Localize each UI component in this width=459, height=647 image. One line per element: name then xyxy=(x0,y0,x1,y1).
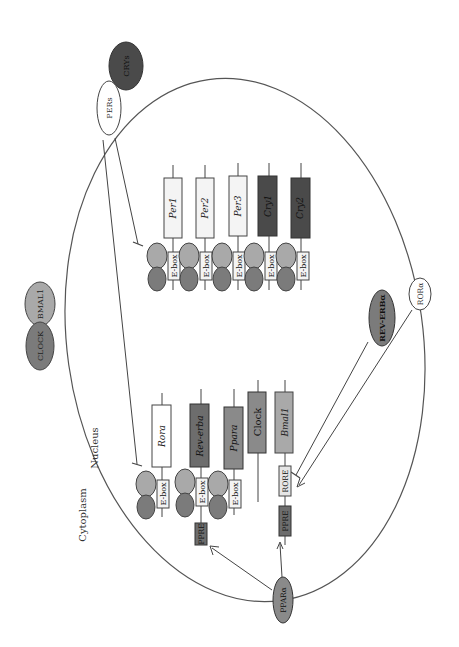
e-box-label: E-box xyxy=(202,254,211,278)
ppre-label: PPRE xyxy=(281,510,290,531)
bmal1-bound xyxy=(208,471,228,497)
bmal1-bound xyxy=(212,243,232,269)
clock-bound xyxy=(209,495,227,519)
clock-bound xyxy=(277,267,295,291)
ror-protein: RORα xyxy=(409,278,431,310)
per-inhibition-to-rora xyxy=(103,140,137,464)
e-box-label: E-box xyxy=(170,254,179,278)
ppar-protein: PPARα xyxy=(273,577,293,623)
gene-rev-erba: Rev-erba E-box PPRE xyxy=(175,389,209,545)
bmal1-bound xyxy=(276,243,296,269)
clock-label: CLOCK xyxy=(36,330,45,361)
rore-label: RORE xyxy=(281,470,290,493)
clock-bound xyxy=(137,495,155,519)
gene-label: Bmal1 xyxy=(280,407,290,437)
e-box-label: E-box xyxy=(299,254,308,278)
cry-label: CRYs xyxy=(122,55,131,76)
clock-bound xyxy=(180,267,198,291)
inhibition-bar xyxy=(291,472,300,478)
clock-bound xyxy=(245,267,263,291)
gene-per3: Per3 E-box xyxy=(212,163,247,291)
gene-ppara: Ppara E-box xyxy=(208,389,243,519)
e-box-label: E-box xyxy=(159,482,168,506)
ror-activation-to-rore xyxy=(299,310,412,485)
clock-bound xyxy=(148,267,166,291)
clock-bound xyxy=(213,267,231,291)
per-inhibition-to-per1 xyxy=(115,138,138,244)
gene-bmal1: Bmal1 RORE PPRE xyxy=(275,380,293,545)
bmal1-bound xyxy=(179,243,199,269)
rev-erb-label: REV-ERBα xyxy=(377,294,387,341)
bmal1-label: BMAL1 xyxy=(36,289,45,319)
gene-label: Per2 xyxy=(200,197,210,219)
gene-per1: Per1 E-box xyxy=(147,165,182,291)
circadian-clock-diagram: Cytoplasm Nucleus CRYs PERs BMAL1 CLOCK … xyxy=(0,0,459,647)
e-box-label: E-box xyxy=(267,254,276,278)
gene-cry1: Cry1 E-box xyxy=(244,163,277,291)
e-box-label: E-box xyxy=(231,482,240,506)
rev-erb-protein: REV-ERBα xyxy=(369,290,395,346)
ror-label: RORα xyxy=(416,283,425,306)
ppre-label: PPRE xyxy=(197,523,206,544)
gene-label: Cry1 xyxy=(263,195,273,217)
cytoplasm-label: Cytoplasm xyxy=(77,488,88,542)
gene-label: Per1 xyxy=(168,197,178,219)
gene-label: Rev-erba xyxy=(195,416,205,458)
per-label: PERs xyxy=(105,97,114,118)
arrow-head xyxy=(210,546,219,555)
bmal1-bound xyxy=(136,471,156,497)
bmal1-bound xyxy=(147,243,167,269)
nucleus-membrane xyxy=(32,55,458,625)
gene-label: Ppara xyxy=(229,425,239,453)
e-box-label: E-box xyxy=(235,254,244,278)
ppar-activation-to-bmal1-ppre xyxy=(280,544,282,577)
gene-label: Rora xyxy=(157,425,167,448)
clock-bound xyxy=(176,493,194,517)
gene-label: Clock xyxy=(252,407,263,436)
rev-erb-inhibition-to-rore xyxy=(296,342,368,475)
clock-bmal1-complex: BMAL1 CLOCK xyxy=(25,282,55,370)
gene-cry2: Cry2 E-box xyxy=(276,163,310,291)
gene-rora: Rora E-box xyxy=(136,393,171,519)
bmal1-bound xyxy=(175,469,195,495)
ppar-activation-to-reverb-ppre xyxy=(212,548,272,590)
per-protein: PERs xyxy=(97,81,121,135)
gene-clock: Clock xyxy=(248,380,266,502)
gene-label: Cry2 xyxy=(295,197,305,219)
gene-per2: Per2 E-box xyxy=(179,165,214,291)
e-box-label: E-box xyxy=(198,480,207,504)
bmal1-bound xyxy=(244,243,264,269)
nucleus-label: Nucleus xyxy=(89,427,100,468)
ppar-label: PPARα xyxy=(279,587,288,613)
gene-label: Per3 xyxy=(233,195,243,217)
